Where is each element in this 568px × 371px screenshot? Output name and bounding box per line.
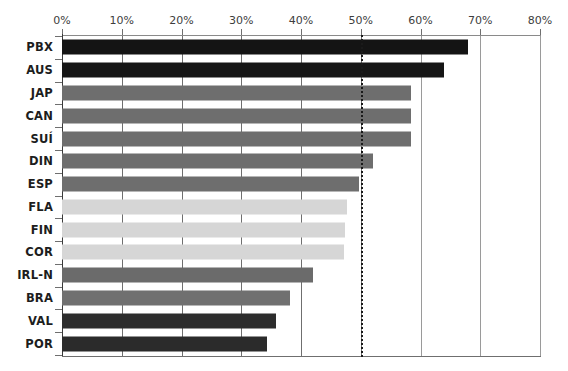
bar-jap <box>62 85 411 100</box>
bar-val <box>62 313 276 328</box>
category-label-pbx: PBX <box>26 40 53 54</box>
category-label-fin: FIN <box>31 223 53 237</box>
category-label-val: VAL <box>28 314 53 328</box>
gridline-40pct <box>301 35 302 357</box>
bar-cor <box>62 245 344 260</box>
gridline-10pct <box>122 35 123 357</box>
bar-pbx <box>62 40 468 55</box>
category-label-bra: BRA <box>26 291 53 305</box>
bar-din <box>62 154 373 169</box>
y-tick-mark-14 <box>55 355 62 356</box>
category-label-din: DIN <box>29 154 53 168</box>
gridline-30pct <box>241 35 242 357</box>
axis-line-bottom <box>62 356 541 357</box>
bar-can <box>62 108 411 123</box>
y-tick-mark-11 <box>55 287 62 288</box>
y-tick-mark-6 <box>55 173 62 174</box>
gridline-80pct <box>540 35 541 357</box>
x-axis-label-70pct: 70% <box>468 14 493 27</box>
y-tick-mark-3 <box>55 104 62 105</box>
y-tick-mark-10 <box>55 264 62 265</box>
category-label-aus: AUS <box>26 63 53 77</box>
y-tick-mark-13 <box>55 332 62 333</box>
category-label-jap: JAP <box>31 86 53 100</box>
y-tick-mark-5 <box>55 150 62 151</box>
axis-line-left <box>62 34 63 357</box>
reference-line-marker <box>361 35 363 357</box>
gridline-60pct <box>421 35 422 357</box>
bar-bra <box>62 291 290 306</box>
category-label-fla: FLA <box>28 200 53 214</box>
axis-line-top <box>62 35 541 36</box>
y-tick-mark-8 <box>55 218 62 219</box>
category-label-su-: SUÍ <box>31 132 54 146</box>
y-tick-mark-12 <box>55 309 62 310</box>
bar-su- <box>62 131 411 146</box>
gridline-20pct <box>182 35 183 357</box>
x-axis-label-0pct: 0% <box>53 14 71 27</box>
bar-chart: 0%10%20%30%40%50%60%70%80% PBXAUSJAPCANS… <box>0 0 568 371</box>
bar-fin <box>62 222 345 237</box>
category-label-can: CAN <box>25 109 53 123</box>
bar-por <box>62 336 267 351</box>
y-axis-category-labels: PBXAUSJAPCANSUÍDINESPFLAFINCORIRL-NBRAVA… <box>0 0 53 371</box>
y-tick-mark-2 <box>55 82 62 83</box>
bar-esp <box>62 177 359 192</box>
x-axis-label-10pct: 10% <box>109 14 134 27</box>
x-axis-label-30pct: 30% <box>229 14 254 27</box>
category-label-por: POR <box>25 337 53 351</box>
x-axis-label-60pct: 60% <box>408 14 433 27</box>
y-tick-mark-4 <box>55 127 62 128</box>
bar-irl-n <box>62 268 313 283</box>
x-axis-label-50pct: 50% <box>348 14 373 27</box>
x-axis-label-80pct: 80% <box>528 14 553 27</box>
bar-fla <box>62 199 347 214</box>
gridline-70pct <box>480 35 481 357</box>
x-axis-label-20pct: 20% <box>169 14 194 27</box>
x-axis-label-40pct: 40% <box>289 14 314 27</box>
bar-aus <box>62 63 444 78</box>
y-tick-mark-0 <box>55 36 62 37</box>
category-label-cor: COR <box>25 245 53 259</box>
category-label-esp: ESP <box>28 177 53 191</box>
category-label-irl-n: IRL-N <box>17 268 53 282</box>
y-tick-mark-7 <box>55 196 62 197</box>
y-tick-mark-9 <box>55 241 62 242</box>
y-tick-mark-1 <box>55 59 62 60</box>
